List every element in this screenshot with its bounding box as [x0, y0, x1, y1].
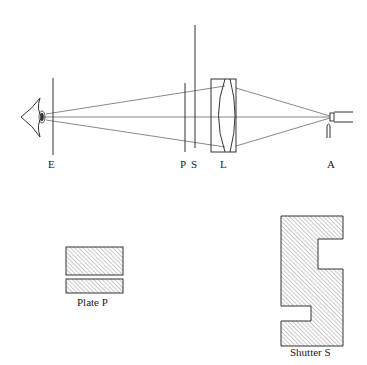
ray-lower-right [236, 118, 330, 146]
light-source-A [327, 112, 353, 138]
ray-upper-left [46, 86, 225, 114]
caption-shutter: Shutter S [290, 346, 331, 358]
label-L: L [220, 158, 227, 170]
ray-upper-right [236, 88, 330, 116]
label-A: A [327, 158, 335, 170]
ray-lower-left [46, 120, 225, 147]
caption-plate: Plate P [77, 296, 108, 308]
eye-icon [21, 98, 45, 137]
label-E: E [48, 158, 55, 170]
label-S: S [191, 158, 197, 170]
optical-diagram: E P S L A Plate P Shutter S [0, 0, 367, 365]
plate-P-detail [66, 247, 123, 293]
shutter-S-detail [281, 216, 343, 346]
lens-L [211, 79, 236, 152]
label-P: P [180, 158, 186, 170]
